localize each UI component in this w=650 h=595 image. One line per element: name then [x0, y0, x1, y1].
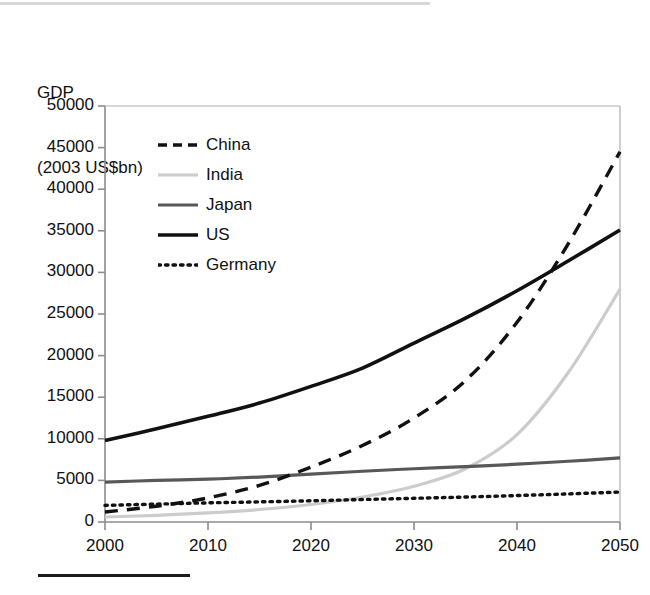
y-axis-tick-label: 50000 — [10, 95, 94, 115]
series-line-india — [105, 289, 620, 517]
x-axis-tick-label: 2020 — [271, 536, 351, 556]
y-axis-tick-label: 40000 — [10, 178, 94, 198]
y-axis-tick-label: 30000 — [10, 261, 94, 281]
legend-item-china[interactable]: China — [158, 130, 348, 160]
legend-item-india[interactable]: India — [158, 160, 348, 190]
legend-item-japan[interactable]: Japan — [158, 190, 348, 220]
y-axis-tick-label: 20000 — [10, 345, 94, 365]
legend-label-us: US — [206, 225, 230, 245]
x-axis-tick-label: 2040 — [477, 536, 557, 556]
x-axis-tick-label: 2000 — [65, 536, 145, 556]
legend-label-japan: Japan — [206, 195, 252, 215]
x-axis-tick-label: 2010 — [168, 536, 248, 556]
chart-legend: ChinaIndiaJapanUSGermany — [158, 130, 348, 280]
figure-footer-rule — [38, 574, 190, 577]
y-axis-tick-label: 35000 — [10, 220, 94, 240]
x-axis-tick-label: 2030 — [374, 536, 454, 556]
legend-swatch-india — [158, 168, 198, 182]
legend-label-india: India — [206, 165, 243, 185]
legend-swatch-china — [158, 138, 198, 152]
line-chart: 0500010000150002000025000300003500040000… — [0, 0, 650, 595]
y-axis-tick-label: 25000 — [10, 303, 94, 323]
legend-label-china: China — [206, 135, 250, 155]
series-line-japan — [105, 458, 620, 482]
y-axis-tick-label: 5000 — [10, 469, 94, 489]
legend-item-us[interactable]: US — [158, 220, 348, 250]
legend-swatch-japan — [158, 198, 198, 212]
y-axis-tick-label: 45000 — [10, 137, 94, 157]
plot-svg — [0, 0, 650, 595]
legend-item-germany[interactable]: Germany — [158, 250, 348, 280]
legend-label-germany: Germany — [206, 255, 276, 275]
legend-swatch-germany — [158, 258, 198, 272]
y-axis-tick-label: 10000 — [10, 428, 94, 448]
y-axis-tick-label: 15000 — [10, 386, 94, 406]
x-axis-tick-label: 2050 — [580, 536, 650, 556]
y-axis-tick-label: 0 — [10, 511, 94, 531]
legend-swatch-us — [158, 228, 198, 242]
